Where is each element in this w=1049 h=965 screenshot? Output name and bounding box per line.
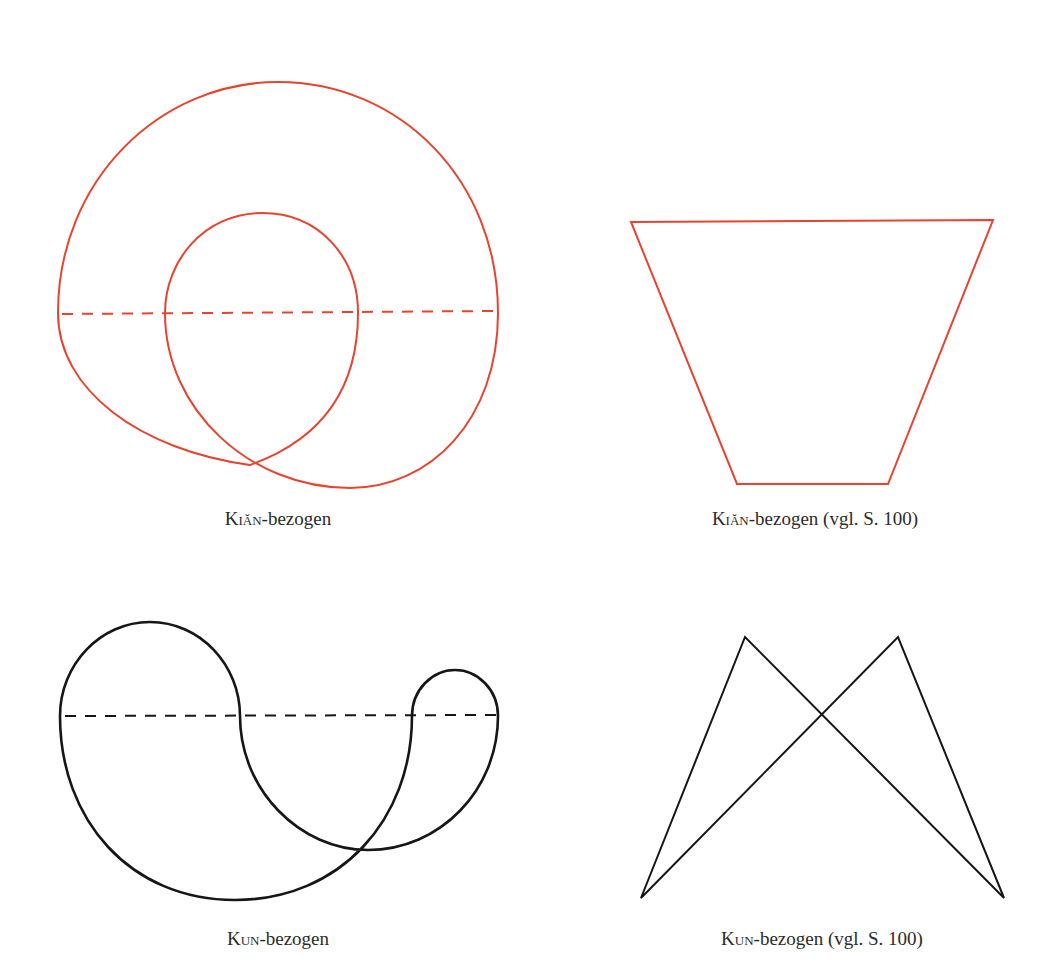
caption-suffix: -bezogen bbox=[262, 508, 332, 529]
caption-term: Kun bbox=[227, 928, 260, 949]
kun-zigzag-figure bbox=[641, 637, 1004, 898]
caption-suffix: -bezogen bbox=[259, 928, 329, 949]
kian-trapezoid bbox=[631, 220, 993, 484]
caption-kun-zigzag: Kun-bezogen (vgl. S. 100) bbox=[721, 928, 923, 950]
caption-suffix: -bezogen (vgl. S. 100) bbox=[754, 928, 923, 949]
kun-double-loop bbox=[60, 622, 498, 900]
caption-kian-trapezoid: Kiăn-bezogen (vgl. S. 100) bbox=[712, 508, 918, 530]
caption-term: Kiăn bbox=[225, 508, 262, 529]
caption-term: Kiăn bbox=[712, 508, 749, 529]
kun-curve-figure bbox=[60, 622, 498, 900]
caption-term: Kun bbox=[721, 928, 754, 949]
kun-zigzag bbox=[641, 637, 1004, 898]
kian-dashed-axis bbox=[62, 311, 496, 314]
figure-canvas bbox=[0, 0, 1049, 965]
kian-trapezoid-figure bbox=[631, 220, 993, 484]
kian-outer-arc bbox=[58, 82, 498, 488]
kian-curve-figure bbox=[58, 82, 498, 488]
caption-suffix: -bezogen (vgl. S. 100) bbox=[749, 508, 918, 529]
caption-kun-curve: Kun-bezogen bbox=[227, 928, 329, 950]
caption-kian-curve: Kiăn-bezogen bbox=[225, 508, 331, 530]
kun-dashed-axis bbox=[65, 715, 496, 716]
